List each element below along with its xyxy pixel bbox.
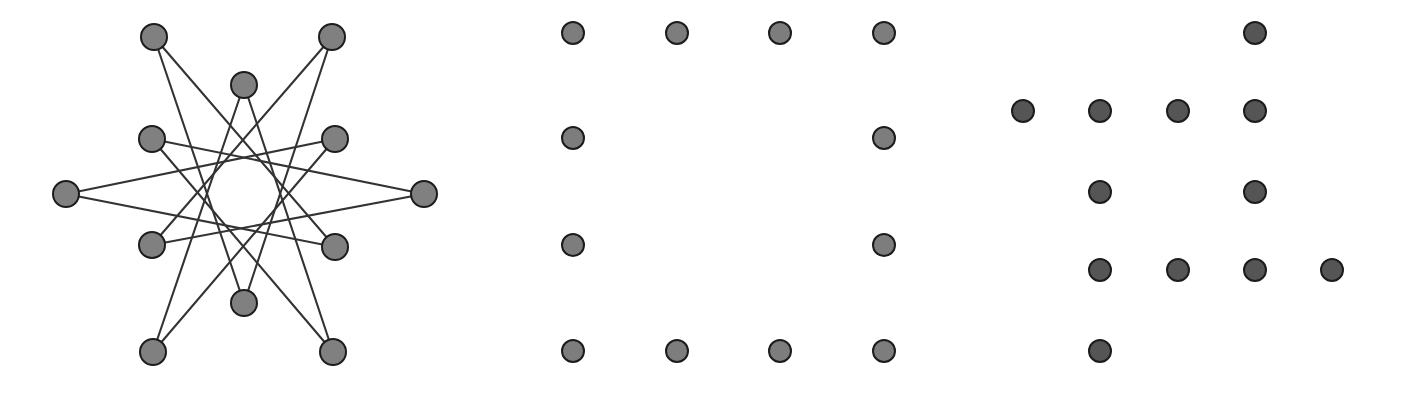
right-dot-3[interactable] xyxy=(1167,100,1189,122)
graph-node-left[interactable] xyxy=(53,181,79,207)
graph-edge-bottom-center-to-top-left xyxy=(154,37,244,303)
middle-dot-3[interactable] xyxy=(873,22,895,44)
right-dot-8[interactable] xyxy=(1167,259,1189,281)
middle-dot-9[interactable] xyxy=(666,340,688,362)
middle-dot-8[interactable] xyxy=(562,340,584,362)
graph-node-upper-right[interactable] xyxy=(322,126,348,152)
middle-dot-11[interactable] xyxy=(873,340,895,362)
middle-dot-4[interactable] xyxy=(562,127,584,149)
graph-node-top-center[interactable] xyxy=(231,72,257,98)
graph-node-bottom-right[interactable] xyxy=(320,339,346,365)
right-dot-5[interactable] xyxy=(1089,181,1111,203)
graph-edge-lower-right-to-left xyxy=(66,194,335,247)
middle-dot-layer xyxy=(562,22,895,362)
graph-edge-top-left-to-lower-right xyxy=(154,37,335,247)
middle-dot-2[interactable] xyxy=(769,22,791,44)
right-dot-11[interactable] xyxy=(1089,340,1111,362)
middle-dot-5[interactable] xyxy=(873,127,895,149)
middle-dot-6[interactable] xyxy=(562,234,584,256)
graph-node-top-left[interactable] xyxy=(141,24,167,50)
graph-node-lower-left[interactable] xyxy=(139,232,165,258)
right-dot-10[interactable] xyxy=(1321,259,1343,281)
right-dot-6[interactable] xyxy=(1244,181,1266,203)
graph-node-lower-right[interactable] xyxy=(322,234,348,260)
right-dot-layer xyxy=(1012,22,1343,362)
figure-canvas xyxy=(0,0,1402,394)
right-dot-0[interactable] xyxy=(1244,22,1266,44)
graph-node-right[interactable] xyxy=(411,181,437,207)
right-dot-4[interactable] xyxy=(1244,100,1266,122)
graph-node-bottom-center[interactable] xyxy=(231,290,257,316)
graph-node-layer xyxy=(53,24,437,365)
graph-node-upper-left[interactable] xyxy=(139,126,165,152)
right-dot-2[interactable] xyxy=(1089,100,1111,122)
middle-dot-7[interactable] xyxy=(873,234,895,256)
middle-dot-1[interactable] xyxy=(666,22,688,44)
graph-node-top-right[interactable] xyxy=(319,24,345,50)
figure-svg xyxy=(0,0,1402,394)
middle-dot-0[interactable] xyxy=(562,22,584,44)
graph-node-bottom-left[interactable] xyxy=(140,339,166,365)
right-dot-9[interactable] xyxy=(1244,259,1266,281)
right-dot-7[interactable] xyxy=(1089,259,1111,281)
middle-dot-10[interactable] xyxy=(769,340,791,362)
right-dot-1[interactable] xyxy=(1012,100,1034,122)
